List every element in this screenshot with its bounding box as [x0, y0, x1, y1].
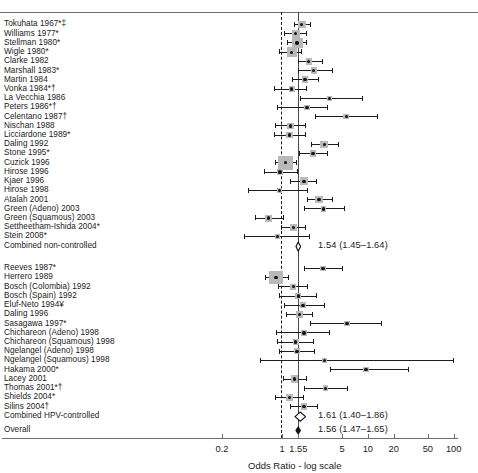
ci-cap-left: [304, 206, 305, 211]
ci-cap-right: [318, 77, 319, 82]
ci-cap-left: [279, 293, 280, 298]
study-label: Chichareon (Adeno) 1998: [4, 328, 99, 337]
x-axis-tick: [298, 434, 299, 439]
x-axis-tick: [342, 434, 343, 439]
ci-cap-left: [275, 160, 276, 165]
ci-cap-left: [276, 330, 277, 335]
effect-point: [293, 377, 296, 380]
ci-cap-right: [306, 31, 307, 36]
study-label: Sasagawa 1997*: [4, 319, 67, 328]
ci-cap-left: [278, 284, 279, 289]
ci-cap-left: [264, 169, 265, 174]
effect-point: [317, 198, 320, 201]
x-axis-title: Odds Ratio - log scale: [248, 460, 341, 471]
effect-point: [305, 106, 308, 109]
study-label: Herrero 1989: [4, 272, 53, 281]
ci-cap-right: [306, 376, 307, 381]
ci-cap-left: [290, 179, 291, 184]
summary-effect-text: 1.54 (1.45–1.64): [318, 240, 388, 250]
study-label: Ngelangel (Squamous) 1998: [4, 355, 109, 364]
ci-cap-left: [284, 303, 285, 308]
ci-cap-left: [294, 22, 295, 27]
ci-cap-left: [248, 188, 249, 193]
study-label: Chichareon (Squamous) 1998: [4, 337, 115, 346]
ci-cap-right: [342, 266, 343, 271]
effect-point: [311, 152, 314, 155]
effect-point: [345, 322, 348, 325]
ci-cap-right: [301, 49, 302, 54]
ci-cap-right: [316, 293, 317, 298]
study-label: Hirose 1998: [4, 185, 49, 194]
ci-cap-right: [381, 321, 382, 326]
overall-label: Overall: [4, 425, 30, 434]
ci-cap-right: [322, 59, 323, 64]
effect-point: [323, 359, 326, 362]
effect-point: [297, 294, 300, 297]
effect-point: [278, 170, 281, 173]
effect-point: [323, 143, 326, 146]
ci-cap-right: [309, 234, 310, 239]
ci-cap-right: [297, 169, 298, 174]
ci-cap-right: [312, 312, 313, 317]
effect-point: [302, 405, 305, 408]
effect-point: [302, 331, 305, 334]
ci-cap-right: [327, 105, 328, 110]
ci-cap-right: [329, 330, 330, 335]
x-axis-tick: [428, 434, 429, 439]
ci-cap-right: [303, 395, 304, 400]
ci-cap-right: [307, 188, 308, 193]
study-label: Atalah 2001: [4, 195, 48, 204]
ci-cap-left: [298, 59, 299, 64]
ci-cap-left: [304, 266, 305, 271]
ci-cap-left: [298, 68, 299, 73]
study-label: Nischan 1988: [4, 121, 55, 130]
study-label: Martin 1984: [4, 75, 48, 84]
study-label: La Vecchia 1986: [4, 93, 65, 102]
x-axis-tick: [454, 434, 455, 439]
ci-cap-right: [306, 86, 307, 91]
effect-point: [322, 207, 325, 210]
ci-cap-left: [275, 123, 276, 128]
ci-cap-left: [315, 114, 316, 119]
summary-diamond: [295, 241, 302, 252]
study-label: Daling 1992: [4, 139, 48, 148]
ci-cap-right: [310, 22, 311, 27]
effect-point: [302, 180, 305, 183]
study-label: Green (Adeno) 2003: [4, 204, 80, 213]
ci-cap-left: [244, 234, 245, 239]
ci-cap-left: [284, 31, 285, 36]
study-label: Ngelangel (Adeno) 1998: [4, 346, 94, 355]
ci-cap-right: [306, 40, 307, 45]
study-label: Licciardone 1989*: [4, 130, 70, 139]
ci-cap-left: [277, 339, 278, 344]
ci-cap-right: [324, 303, 325, 308]
effect-point: [295, 350, 298, 353]
effect-point: [288, 133, 291, 136]
ci-cap-left: [283, 376, 284, 381]
ci-cap-left: [279, 349, 280, 354]
ci-cap-right: [344, 206, 345, 211]
study-label: Marshall 1983*: [4, 66, 59, 75]
ci-cap-left: [277, 105, 278, 110]
x-axis-tick-label: 0.2: [202, 444, 242, 454]
study-label: Stellman 1980*: [4, 38, 60, 47]
study-label: Kjaer 1996: [4, 176, 44, 185]
study-label: Shields 2004*: [4, 392, 55, 401]
summary-label: Combined HPV-controlled: [4, 411, 99, 420]
study-label: Green (Squamous) 2003: [4, 213, 95, 222]
study-label: Silins 2004†: [4, 402, 49, 411]
study-label: Clarke 1982: [4, 56, 49, 65]
confidence-interval-line: [277, 107, 327, 108]
ci-cap-left: [286, 312, 287, 317]
ci-cap-left: [330, 367, 331, 372]
study-label: Reeves 1987*: [4, 263, 56, 272]
ci-cap-right: [453, 358, 454, 363]
ci-cap-right: [313, 339, 314, 344]
confidence-interval-line: [330, 369, 409, 370]
ci-cap-left: [307, 197, 308, 202]
reference-line-summary: [298, 12, 299, 438]
ci-cap-left: [304, 386, 305, 391]
x-axis-tick-label: 1.55: [278, 444, 318, 454]
ci-cap-left: [274, 132, 275, 137]
x-axis-tick: [394, 434, 395, 439]
